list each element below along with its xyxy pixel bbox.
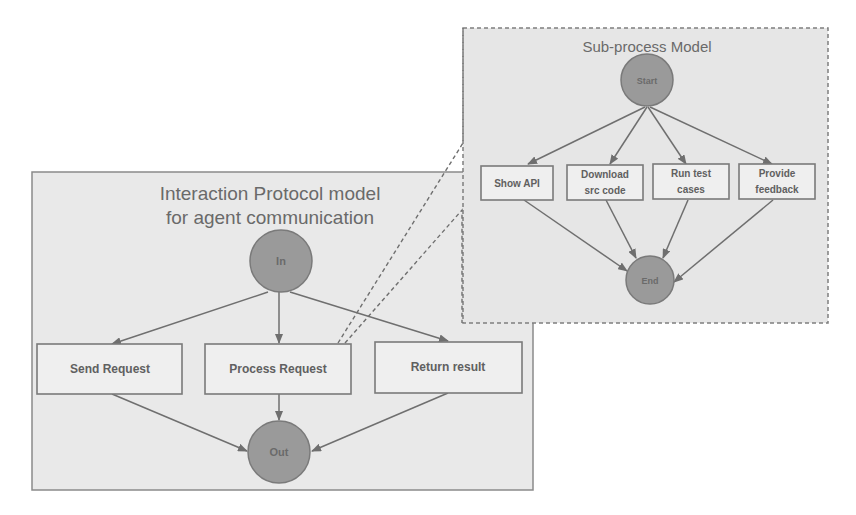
in-label: In xyxy=(276,255,286,267)
step-process-request[interactable]: Process Request xyxy=(205,344,351,394)
step-return-result[interactable]: Return result xyxy=(375,342,522,393)
start-label: Start xyxy=(637,76,658,86)
sub-step-download-src[interactable]: Download src code xyxy=(567,165,643,200)
main-model-title-line1: Interaction Protocol model xyxy=(160,183,381,204)
step-send-request[interactable]: Send Request xyxy=(37,344,182,394)
download-src-label-line1: Download xyxy=(581,169,629,180)
out-label: Out xyxy=(270,446,289,458)
sub-step-run-tests[interactable]: Run test cases xyxy=(653,164,729,199)
sub-model-title: Sub-process Model xyxy=(582,38,711,55)
main-end-node[interactable]: Out xyxy=(248,421,310,483)
end-label: End xyxy=(642,276,659,286)
sub-step-show-api[interactable]: Show API xyxy=(481,166,553,200)
main-start-node[interactable]: In xyxy=(250,230,312,292)
diagram-canvas: Interaction Protocol model for agent com… xyxy=(0,0,856,515)
provide-feedback-label-line2: feedback xyxy=(755,184,799,195)
main-model-title-line2: for agent communication xyxy=(166,207,374,228)
process-request-label: Process Request xyxy=(229,362,326,376)
return-result-label: Return result xyxy=(411,360,486,374)
sub-step-provide-feedback[interactable]: Provide feedback xyxy=(739,164,815,199)
sub-end-node[interactable]: End xyxy=(626,256,674,304)
run-tests-label-line2: cases xyxy=(677,184,705,195)
run-tests-label-line1: Run test xyxy=(671,168,712,179)
sub-start-node[interactable]: Start xyxy=(621,54,673,106)
download-src-label-line2: src code xyxy=(584,185,626,196)
send-request-label: Send Request xyxy=(70,362,150,376)
provide-feedback-label-line1: Provide xyxy=(759,168,796,179)
show-api-label: Show API xyxy=(494,178,540,189)
